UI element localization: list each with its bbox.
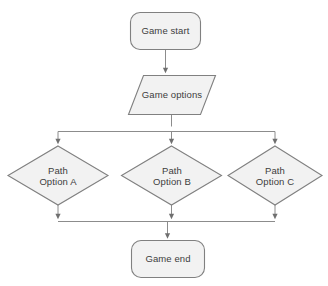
shape-diamond-path-option-a[interactable] (8, 146, 108, 205)
flowchart-diagram: Game start Game options Path Option A Pa… (0, 0, 328, 286)
shape-diamond-path-option-c[interactable] (228, 146, 322, 205)
shape-terminator-game-start[interactable] (131, 13, 201, 50)
shape-terminator-game-end[interactable] (132, 241, 205, 278)
flowchart-canvas (0, 0, 328, 286)
shape-diamond-path-option-b[interactable] (122, 146, 222, 205)
shape-parallelogram-game-options[interactable] (129, 76, 216, 115)
